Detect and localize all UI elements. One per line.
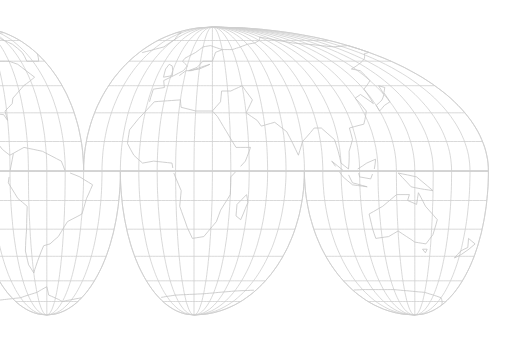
meridian-line	[0, 27, 47, 171]
coastline-africa	[174, 172, 236, 239]
coastline-sumatra-java	[339, 172, 367, 187]
coastline-borneo	[359, 173, 373, 179]
meridian-line	[212, 27, 322, 171]
world-map	[0, 0, 526, 340]
meridian-line	[157, 27, 212, 171]
meridian-line	[47, 171, 102, 315]
meridian-line	[212, 27, 230, 171]
coastline-africa	[128, 102, 173, 168]
meridian-line	[0, 27, 10, 171]
coastline-greenland	[27, 54, 39, 61]
meridian-line	[28, 171, 46, 315]
coastline-borneo	[358, 159, 376, 169]
meridian-line	[139, 171, 194, 315]
coastline-africa	[154, 100, 250, 166]
meridian-line	[304, 171, 414, 315]
meridian-line	[323, 171, 415, 315]
meridian-line	[194, 171, 249, 315]
coastline-new-guinea	[398, 173, 433, 191]
meridian-line	[0, 171, 47, 315]
lobe-outline-eurasia	[84, 27, 489, 171]
coastlines	[0, 33, 475, 305]
meridian-line	[212, 27, 414, 171]
coastline-south-america	[10, 153, 13, 171]
meridian-line	[415, 171, 470, 315]
meridian-line	[176, 171, 194, 315]
meridian-line	[47, 171, 65, 315]
coastline-south-america	[13, 147, 65, 171]
meridian-line	[0, 171, 47, 315]
meridian-line	[120, 27, 212, 171]
meridian-line	[212, 27, 488, 171]
coastline-new-zealand	[454, 238, 475, 258]
meridian-line	[212, 27, 378, 171]
coastline-asia	[212, 37, 373, 169]
meridian-line	[212, 27, 451, 171]
coastline-antarctica	[354, 290, 442, 305]
meridian-line	[396, 171, 414, 315]
coastline-tasmania	[423, 249, 428, 253]
meridian-line	[415, 171, 433, 315]
coastline-japan	[376, 86, 390, 111]
meridian-line	[212, 27, 396, 171]
meridian-line	[212, 27, 433, 171]
coastline-europe-africa	[150, 46, 223, 102]
meridian-line	[0, 27, 28, 171]
meridian-line	[194, 27, 212, 171]
meridian-line	[360, 171, 415, 315]
coastline-south-america	[8, 173, 92, 273]
